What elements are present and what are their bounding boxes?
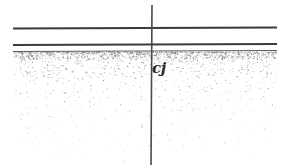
vertical-joint-line — [151, 5, 152, 165]
construction-joint-label: cj — [152, 61, 166, 76]
drawing-svg — [0, 0, 288, 168]
slab-underside-line — [13, 44, 277, 45]
top-surface-line — [13, 28, 277, 29]
subgrade-line — [13, 51, 277, 52]
technical-drawing-canvas: cj — [0, 0, 288, 168]
soil-stipple-fill — [13, 51, 277, 161]
